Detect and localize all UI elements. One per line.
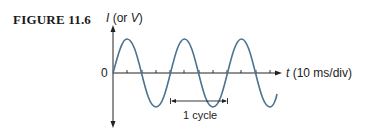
- y-axis-up-arrow-icon: [111, 25, 116, 32]
- cycle-left-arrow-icon: [171, 99, 176, 103]
- cycle-right-arrow-icon: [222, 99, 227, 103]
- y-axis-down-arrow-icon: [111, 121, 116, 128]
- sine-wave-diagram: [0, 0, 377, 132]
- cycle-dimension: [171, 98, 228, 104]
- x-axis-arrow-icon: [275, 71, 282, 76]
